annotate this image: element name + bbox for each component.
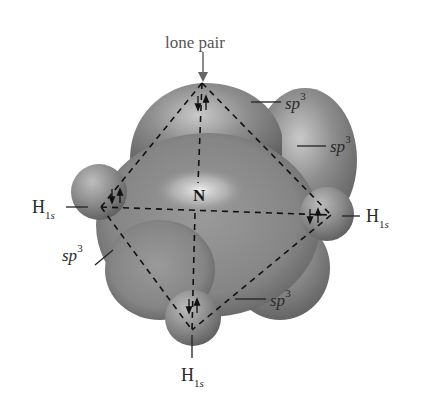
lone-pair-arrow (198, 52, 208, 82)
h1s-label-left: H1s (32, 198, 55, 220)
sp3-label-bottom: sp3 (270, 290, 291, 309)
orbital-graphic (0, 0, 421, 407)
sp3-label-right: sp3 (330, 136, 351, 155)
sp3-label-top-right: sp3 (285, 93, 306, 112)
nh3-orbital-diagram: lone pair N sp3 sp3 sp3 sp3 H1s H1s H1s (0, 0, 421, 407)
hydrogen-right (300, 187, 354, 241)
sp3-label-left: sp3 (62, 245, 83, 264)
hydrogen-bottom (165, 290, 221, 346)
nitrogen-label: N (193, 187, 205, 204)
h1s-label-bottom: H1s (181, 366, 204, 388)
h1s-label-right: H1s (366, 207, 389, 229)
lone-pair-label: lone pair (165, 34, 225, 51)
